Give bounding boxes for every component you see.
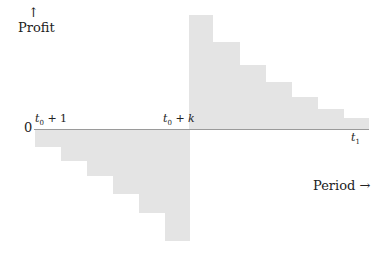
y-axis-arrow-icon: ↑: [28, 5, 39, 20]
loss-bar: [61, 129, 87, 161]
negative-profit-bars: [35, 129, 190, 241]
profit-bar: [344, 118, 369, 129]
y-axis-label: Profit: [18, 20, 55, 35]
profit-bar: [292, 97, 318, 129]
tick-sub: 1: [355, 138, 359, 146]
loss-bar: [113, 129, 139, 194]
tick-label-t0-plus-1: t0 + 1: [35, 112, 67, 127]
tick-rest: + 1: [44, 112, 67, 125]
loss-bar: [165, 129, 190, 241]
tick-label-t1: t1: [351, 131, 360, 146]
positive-profit-bars: [189, 15, 369, 129]
tick-label-t0-plus-k: t0 + k: [163, 112, 195, 127]
loss-bar: [87, 129, 113, 176]
profit-bar: [318, 109, 344, 129]
profit-bar: [213, 42, 240, 129]
profit-step-chart: [0, 0, 387, 255]
profit-bar: [266, 82, 292, 129]
x-axis-label: Period →: [313, 178, 370, 193]
loss-bar: [35, 129, 61, 147]
profit-bar: [240, 65, 266, 129]
zero-label: 0: [24, 120, 32, 135]
loss-bar: [139, 129, 165, 213]
tick-rest: + k: [172, 112, 195, 125]
